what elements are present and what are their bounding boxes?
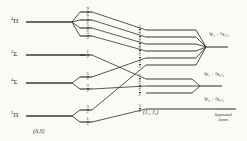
omega-fraction-0-3: 32 xyxy=(87,31,89,40)
j-fraction-0-5: 32 xyxy=(139,60,141,69)
omega-fraction-2-1: 32 xyxy=(87,84,89,93)
omega-fraction-2-0: 52 xyxy=(87,72,89,81)
fan-line-3-1 xyxy=(72,116,80,122)
atom-state-label-2: ³P₁ + ²S₁⁄₂ xyxy=(204,72,224,77)
caption-separated-atoms: Separated Atoms xyxy=(203,113,243,123)
j-fraction-2-0: 12 xyxy=(139,104,141,113)
atom-state-label-1: ³P₂ + ²S₁⁄₂ xyxy=(209,32,229,37)
term-label-4sigma: 4Σ xyxy=(11,78,17,86)
caption-j1-j2: (J₁, J₂) xyxy=(143,109,158,115)
energy-level-correlation-diagram: 4Π 2Σ 4Σ 2Π (Λ,S) (J₁, J₂) Separated Ato… xyxy=(0,0,247,141)
separated-atoms-line2: Atoms xyxy=(218,117,228,122)
term-label-2sigma: 2Σ xyxy=(11,50,17,58)
converge-line-1-0 xyxy=(192,79,200,86)
term-symbol: Σ xyxy=(13,50,17,58)
omega-fraction-3-1: 12 xyxy=(87,117,89,126)
term-symbol: Σ xyxy=(13,78,17,86)
caption-lambda-s: (Λ,S) xyxy=(33,128,44,134)
term-label-4pi: 4Π xyxy=(11,17,18,25)
fan-line-2-1 xyxy=(72,83,80,89)
term-label-2pi: 2Π xyxy=(11,111,18,119)
fan-line-3-0 xyxy=(72,110,80,116)
converge-line-1-2 xyxy=(192,86,200,93)
omega-fraction-1-0: 12 xyxy=(87,50,89,59)
fan-line-2-0 xyxy=(72,77,80,83)
term-symbol: Π xyxy=(13,111,18,119)
fan-line-0-3 xyxy=(72,22,80,36)
atom-state-label-3: ³P₀ + ²S₁⁄₂ xyxy=(204,97,224,102)
term-symbol: Π xyxy=(13,17,18,25)
j-fraction-1-2: 12 xyxy=(139,88,141,97)
omega-fraction-3-0: 32 xyxy=(87,105,89,114)
